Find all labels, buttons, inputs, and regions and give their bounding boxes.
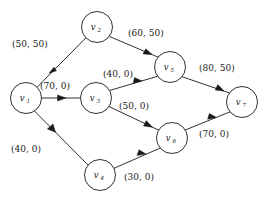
arrowhead-v1-v3 [58,95,67,101]
edge-label-v1-v3: (70, 0) [40,81,70,91]
edge-label-v4-v6: (30, 0) [124,172,154,182]
node-label-v1: v [20,93,25,103]
node-v3[interactable]: v 3 [81,83,112,114]
edge-label-v6-v7: (70, 0) [199,129,229,139]
edge-v2-v5 [110,37,160,58]
node-v2[interactable]: v 2 [82,12,113,43]
edge-line-v6-v7 [184,111,232,131]
node-label-v6: v [166,133,171,143]
arrowhead-v6-v7 [208,113,217,119]
node-v4[interactable]: v 4 [85,160,116,191]
arrowhead-v2-v5 [143,49,152,55]
edge-label-v2-v5: (60, 50) [128,28,164,38]
node-subscript-v6: 6 [172,138,176,144]
node-v6[interactable]: v 6 [157,123,188,154]
edge-label-v1-v2: (50, 50) [12,39,48,49]
edge-v6-v7 [184,111,232,131]
edge-v5-v7 [182,77,232,94]
node-v7[interactable]: v 7 [227,87,258,118]
node-label-v5: v [164,62,169,72]
edge-line-v1-v4 [35,111,90,166]
edge-label-layer: (50, 50) (70, 0) (40, 0) (60, 50) (40, 0… [11,28,235,182]
node-subscript-v3: 3 [96,98,100,104]
edge-label-v5-v7: (80, 50) [199,63,235,73]
node-label-v2: v [91,22,96,32]
node-subscript-v1: 1 [26,98,30,104]
edge-line-v4-v6 [114,148,162,169]
node-label-v3: v [90,93,95,103]
node-label-v7: v [236,97,241,107]
edge-v1-v3 [42,95,81,101]
node-label-v4: v [94,170,99,180]
node-subscript-v2: 2 [96,27,101,33]
arrowhead-v5-v7 [215,85,224,91]
node-v1[interactable]: v 1 [11,83,42,114]
node-v5[interactable]: v 5 [155,52,186,83]
edge-label-v3-v5: (40, 0) [103,69,133,79]
edge-label-v1-v4: (40, 0) [11,144,41,154]
node-subscript-v7: 7 [242,102,246,108]
diagram-canvas: v 1 v 2 v 3 v 4 v 5 [0,0,277,204]
arrowhead-v3-v6 [144,121,153,128]
edge-v4-v6 [114,148,162,169]
edge-label-v3-v6: (50, 0) [119,101,149,111]
edge-v1-v4 [35,111,90,166]
flow-network-figure: v 1 v 2 v 3 v 4 v 5 [0,0,277,204]
node-subscript-v4: 4 [99,175,104,181]
node-subscript-v5: 5 [170,67,174,73]
